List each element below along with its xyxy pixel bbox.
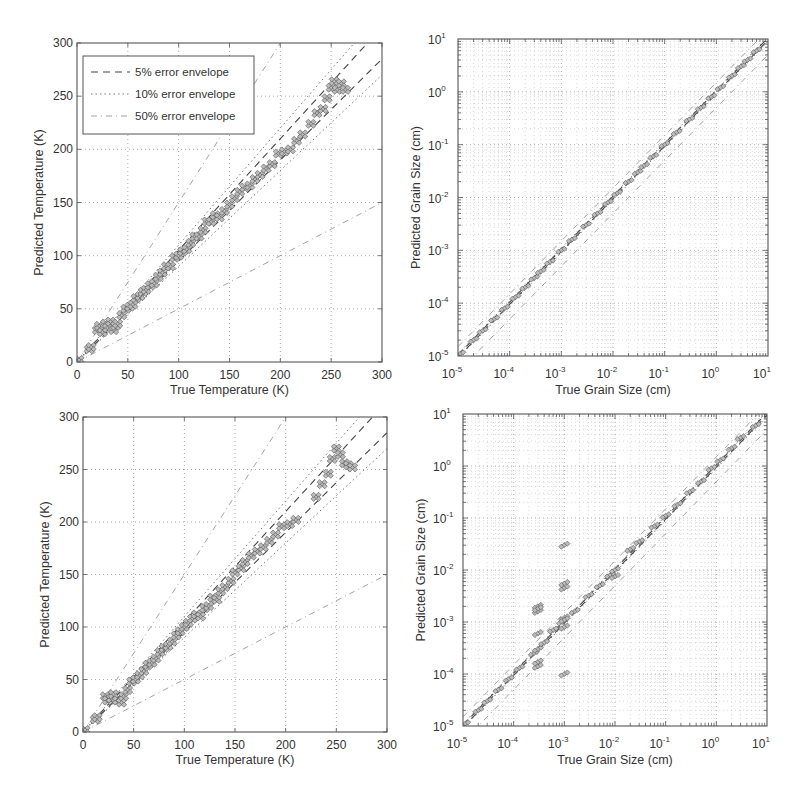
y-tick-label: 0 <box>72 725 79 739</box>
data-point <box>317 480 327 489</box>
x-tick-label: 300 <box>377 738 397 752</box>
x-tick-label: 200 <box>276 738 296 752</box>
x-tick-label: 100 <box>701 735 719 751</box>
data-point <box>514 664 525 672</box>
y-tick-label: 10-4 <box>433 666 454 682</box>
data-point <box>649 522 660 530</box>
legend: 5% error envelope10% error envelope50% e… <box>83 56 254 134</box>
tick-exponent: 1 <box>766 365 771 374</box>
x-tick-label: 50 <box>121 368 135 382</box>
chart-temp-bottom: 050100150200250300050100150200250300True… <box>38 260 397 768</box>
chart-grain-top: 10-510-410-310-210-110010110-510-410-310… <box>409 30 771 397</box>
x-tick-label: 200 <box>270 368 290 382</box>
y-tick-label: 100 <box>59 620 79 634</box>
tick-exponent: -2 <box>446 562 454 571</box>
tick-exponent: -1 <box>663 735 671 744</box>
x-tick-label: 100 <box>169 368 189 382</box>
data-point <box>742 56 753 64</box>
tick-exponent: -5 <box>455 365 463 374</box>
y-axis-label: Predicted Grain Size (cm) <box>414 498 428 641</box>
tick-base: 10 <box>428 86 442 100</box>
data-point <box>535 267 546 275</box>
tick-base: 10 <box>648 367 662 381</box>
y-tick-label: 150 <box>59 568 79 582</box>
data-point <box>323 469 333 478</box>
x-tick-label: 10-4 <box>493 365 514 381</box>
data-point <box>715 84 726 92</box>
y-tick-label: 200 <box>59 515 79 529</box>
y-tick-label: 10-5 <box>428 348 449 364</box>
y-axis-label: Predicted Temperature (K) <box>32 129 46 275</box>
tick-base: 10 <box>433 512 447 526</box>
tick-base: 10 <box>428 139 442 153</box>
tick-base: 10 <box>433 668 447 682</box>
tick-exponent: -4 <box>446 666 454 675</box>
tick-exponent: -2 <box>610 365 618 374</box>
tick-exponent: 0 <box>715 735 720 744</box>
data-point <box>493 686 504 694</box>
data-point <box>684 115 695 123</box>
tick-base: 10 <box>428 33 442 47</box>
tick-base: 10 <box>753 367 767 381</box>
x-tick-label: 100 <box>174 738 194 752</box>
tick-base: 10 <box>428 350 442 364</box>
data-point <box>270 530 280 539</box>
y-tick-label: 101 <box>428 31 446 47</box>
figure: 050100150200250300050100150200250300True… <box>0 0 804 797</box>
legend-label: 10% error envelope <box>135 88 235 100</box>
data-point <box>684 488 695 496</box>
x-axis-label: True Temperature (K) <box>170 383 289 397</box>
tick-exponent: 1 <box>441 31 446 40</box>
y-axis-label: Predicted Grain Size (cm) <box>409 126 423 269</box>
tick-exponent: -4 <box>507 365 515 374</box>
tick-base: 10 <box>599 737 613 751</box>
data-point <box>532 629 543 637</box>
tick-base: 10 <box>548 737 562 751</box>
tick-base: 10 <box>428 244 442 258</box>
data-point <box>459 720 470 728</box>
tick-exponent: -4 <box>441 295 449 304</box>
x-tick-label: 50 <box>127 738 141 752</box>
data-point <box>648 152 659 160</box>
data-point <box>482 697 493 705</box>
data-point <box>74 355 84 364</box>
x-axis-label: True Grain Size (cm) <box>555 383 671 397</box>
x-tick-label: 0 <box>80 738 87 752</box>
x-tick-label: 10-3 <box>545 365 566 381</box>
data-point <box>226 576 236 585</box>
y-tick-label: 250 <box>59 463 79 477</box>
tick-base: 10 <box>701 737 715 751</box>
x-tick-label: 10-2 <box>597 365 618 381</box>
data-point <box>499 304 510 312</box>
y-tick-label: 150 <box>53 196 73 210</box>
tick-base: 10 <box>701 367 715 381</box>
tick-base: 10 <box>597 367 611 381</box>
tick-base: 10 <box>428 297 442 311</box>
x-tick-label: 250 <box>326 738 346 752</box>
tick-base: 10 <box>447 737 461 751</box>
tick-base: 10 <box>545 367 559 381</box>
tick-exponent: 0 <box>446 458 451 467</box>
x-tick-label: 101 <box>753 365 771 381</box>
y-tick-label: 100 <box>433 458 451 474</box>
data-point <box>559 670 570 678</box>
envelope-50pct-lower <box>77 203 382 363</box>
data-point <box>609 566 620 574</box>
tick-exponent: -5 <box>441 348 449 357</box>
data-point <box>726 72 737 80</box>
x-tick-label: 10-1 <box>648 365 669 381</box>
data-point <box>455 350 466 358</box>
y-tick-label: 100 <box>53 249 73 263</box>
data-point <box>468 336 479 344</box>
data-point <box>592 209 603 217</box>
tick-base: 10 <box>433 564 447 578</box>
x-tick-label: 10-5 <box>442 365 463 381</box>
tick-base: 10 <box>433 720 447 734</box>
y-tick-label: 10-4 <box>428 295 449 311</box>
data-point <box>327 454 337 463</box>
y-tick-label: 50 <box>66 673 80 687</box>
data-point <box>520 283 531 291</box>
y-tick-label: 250 <box>53 89 73 103</box>
tick-exponent: -3 <box>558 365 566 374</box>
y-tick-label: 50 <box>60 302 74 316</box>
